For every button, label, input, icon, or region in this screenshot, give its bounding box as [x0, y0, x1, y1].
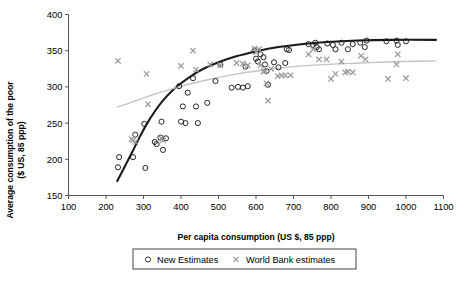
- x-tick-label: 1000: [396, 201, 417, 212]
- x-tick-label: 900: [361, 201, 377, 212]
- chart-container: 1502002503003504001002003004005006007008…: [0, 0, 457, 281]
- scatter-chart: 1502002503003504001002003004005006007008…: [0, 0, 457, 281]
- x-tick-label: 800: [323, 201, 339, 212]
- x-axis-title: Per capita consumption (US $, 85 ppp): [177, 232, 334, 242]
- chart-legend: New Estimates World Bank estimates: [133, 249, 356, 269]
- legend-label-world-bank: World Bank estimates: [246, 255, 336, 265]
- x-tick-label: 300: [136, 201, 152, 212]
- x-tick-label: 700: [286, 201, 302, 212]
- y-axis-title-line2: ($ US, 85 ppp): [16, 121, 26, 178]
- x-tick-label: 1100: [433, 201, 453, 212]
- y-axis-title-line1: Average consumption of the poor: [5, 81, 15, 219]
- y-tick-label: 400: [47, 9, 63, 20]
- y-tick-label: 150: [47, 190, 63, 201]
- x-tick-label: 100: [61, 201, 77, 212]
- legend-label-new-estimates: New Estimates: [157, 255, 219, 265]
- y-tick-label: 350: [47, 45, 63, 56]
- x-tick-label: 200: [98, 201, 114, 212]
- y-tick-label: 300: [47, 81, 63, 92]
- x-tick-label: 600: [248, 201, 264, 212]
- y-tick-label: 200: [47, 154, 63, 165]
- x-tick-label: 500: [211, 201, 227, 212]
- x-tick-label: 400: [173, 201, 189, 212]
- y-tick-label: 250: [47, 118, 63, 129]
